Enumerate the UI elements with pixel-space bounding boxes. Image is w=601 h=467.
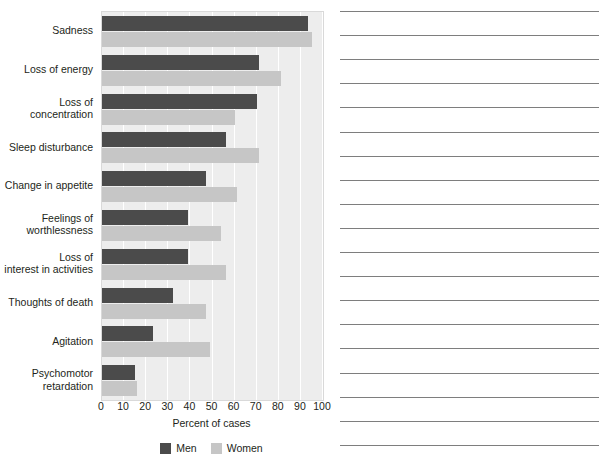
note-line <box>340 107 599 108</box>
note-line <box>340 276 599 277</box>
category-label: Psychomotorretardation <box>0 367 93 392</box>
legend-swatch-icon <box>211 443 222 454</box>
note-line <box>340 397 599 398</box>
bar-women <box>102 226 221 241</box>
bar-men <box>102 249 188 264</box>
legend-label: Men <box>176 442 196 454</box>
bar-men <box>102 55 259 70</box>
gridline <box>322 12 323 400</box>
note-line <box>340 83 599 84</box>
bar-women <box>102 381 137 396</box>
category-label: Feelings ofworthlessness <box>0 212 93 237</box>
category-label: Sleep disturbance <box>0 141 93 154</box>
category-label: Loss ofconcentration <box>0 96 93 121</box>
bar-women <box>102 187 237 202</box>
category-label: Change in appetite <box>0 179 93 192</box>
legend-item-men: Men <box>160 442 196 454</box>
category-label: Loss ofinterest in activities <box>0 251 93 276</box>
note-line <box>340 421 599 422</box>
note-line <box>340 11 599 12</box>
note-line <box>340 324 599 325</box>
category-label: Sadness <box>0 24 93 37</box>
bar-men <box>102 326 153 341</box>
note-line <box>340 348 599 349</box>
bar-men <box>102 16 308 31</box>
bar-women <box>102 71 281 86</box>
note-line <box>340 156 599 157</box>
chart-legend: MenWomen <box>101 440 322 456</box>
plot-area <box>101 11 324 401</box>
category-label: Loss of energy <box>0 63 93 76</box>
legend-label: Women <box>227 442 263 454</box>
category-axis-labels: SadnessLoss of energyLoss ofconcentratio… <box>0 11 97 399</box>
bar-women <box>102 110 235 125</box>
bar-chart-figure: SadnessLoss of energyLoss ofconcentratio… <box>0 0 330 467</box>
bar-men <box>102 288 173 303</box>
note-line <box>340 59 599 60</box>
x-axis-title: Percent of cases <box>101 417 322 429</box>
x-tick-label: 100 <box>309 400 335 413</box>
gridline <box>300 12 301 400</box>
bar-men <box>102 171 206 186</box>
note-line <box>340 180 599 181</box>
category-label: Thoughts of death <box>0 296 93 309</box>
note-line <box>340 228 599 229</box>
note-line <box>340 445 599 446</box>
bar-men <box>102 94 257 109</box>
bar-women <box>102 148 259 163</box>
x-axis-tick-labels: 0102030405060708090100 <box>101 400 322 414</box>
note-line <box>340 373 599 374</box>
legend-item-women: Women <box>211 442 263 454</box>
ruled-notes-panel <box>340 0 599 467</box>
bar-women <box>102 265 226 280</box>
note-line <box>340 300 599 301</box>
bar-men <box>102 132 226 147</box>
note-line <box>340 35 599 36</box>
bar-women <box>102 342 210 357</box>
bar-men <box>102 365 135 380</box>
note-line <box>340 132 599 133</box>
note-line <box>340 204 599 205</box>
bar-women <box>102 32 312 47</box>
bar-men <box>102 210 188 225</box>
legend-swatch-icon <box>160 443 171 454</box>
category-label: Agitation <box>0 335 93 348</box>
note-line <box>340 252 599 253</box>
bar-women <box>102 304 206 319</box>
